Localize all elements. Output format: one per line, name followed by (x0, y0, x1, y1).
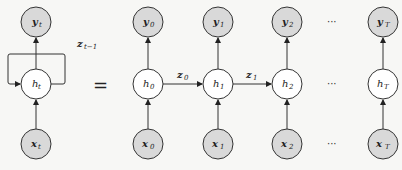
equals-sign: = (93, 74, 108, 95)
rnn-diagram: y t h t x t z t−1 = z 0 z 1 (0, 0, 402, 170)
svg-text:y: y (31, 16, 39, 27)
node-y-T (368, 7, 398, 37)
svg-text:t: t (39, 21, 42, 29)
svg-text:z: z (176, 69, 183, 80)
label-z-t-minus-1: z t−1 (76, 38, 97, 51)
label-z-0: z 0 (176, 69, 189, 82)
svg-text:x: x (211, 138, 219, 149)
node-x-T (368, 129, 398, 159)
node-x-0 (133, 129, 163, 159)
svg-text:0: 0 (184, 74, 189, 82)
svg-text:t: t (38, 143, 41, 151)
timestep-T: y T h T x T (368, 7, 398, 159)
svg-text:h: h (377, 78, 383, 89)
svg-text:y: y (142, 16, 150, 27)
timestep-0: y 0 h 0 x 0 (133, 7, 163, 159)
svg-text:z: z (76, 38, 83, 49)
svg-text:z: z (245, 69, 252, 80)
node-x-1 (203, 129, 233, 159)
svg-text:y: y (281, 16, 289, 27)
label-z-1: z 1 (245, 69, 257, 82)
node-h-t: h t (21, 69, 51, 99)
svg-text:1: 1 (220, 83, 224, 91)
svg-text:t: t (38, 83, 41, 91)
svg-text:2: 2 (288, 21, 294, 29)
ellipsis-hidden: ··· (327, 78, 337, 89)
timestep-2: y 2 h 2 x 2 (272, 7, 302, 159)
node-y-t: y t (21, 7, 51, 37)
svg-text:2: 2 (288, 143, 294, 151)
svg-text:0: 0 (150, 83, 155, 91)
svg-text:0: 0 (150, 143, 155, 151)
svg-text:h: h (143, 78, 149, 89)
svg-text:t−1: t−1 (84, 43, 97, 51)
svg-text:h: h (213, 78, 219, 89)
svg-text:0: 0 (150, 21, 155, 29)
svg-text:x: x (141, 138, 149, 149)
folded-rnn: y t h t x t z t−1 (8, 7, 97, 159)
timestep-1: y 1 h 1 x 1 (203, 7, 233, 159)
svg-text:y: y (376, 16, 384, 27)
svg-text:1: 1 (220, 143, 224, 151)
svg-text:y: y (212, 16, 220, 27)
svg-text:1: 1 (220, 21, 224, 29)
svg-text:1: 1 (253, 74, 257, 82)
ellipsis-output: ··· (327, 16, 337, 27)
node-x-2 (272, 129, 302, 159)
svg-text:x: x (30, 138, 38, 149)
node-x-t: x t (21, 129, 51, 159)
svg-text:2: 2 (288, 83, 294, 91)
svg-text:x: x (280, 138, 288, 149)
svg-text:x: x (375, 138, 383, 149)
unrolled-rnn: z 0 z 1 y 0 h 0 x 0 y 1 (133, 7, 398, 159)
svg-text:h: h (282, 78, 288, 89)
ellipsis-input: ··· (327, 138, 337, 149)
